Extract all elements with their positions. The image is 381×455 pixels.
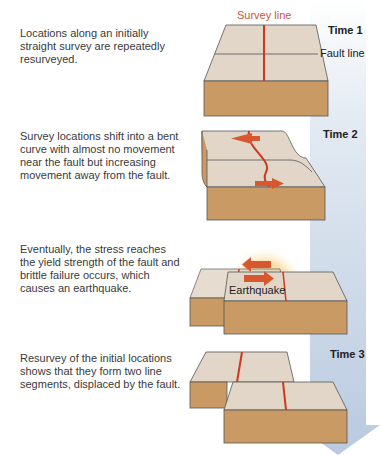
step2-description: Survey locations shift into a bent curve… [20, 130, 180, 182]
time1-label: Time 1 [328, 24, 363, 36]
step3-description: Eventually, the stress reaches the yield… [20, 243, 180, 295]
block-time1 [204, 25, 328, 116]
time2-label: Time 2 [323, 128, 358, 140]
time3-label: Time 3 [330, 348, 365, 360]
block-time2 [202, 131, 325, 220]
survey-line-label: Survey line [237, 9, 291, 21]
fault-line-label: Fault line [320, 47, 365, 59]
earthquake-label: Earthquake [229, 284, 285, 296]
step1-description: Locations along an initially straight su… [20, 27, 180, 66]
step4-description: Resurvey of the initial locations shows … [20, 352, 185, 391]
